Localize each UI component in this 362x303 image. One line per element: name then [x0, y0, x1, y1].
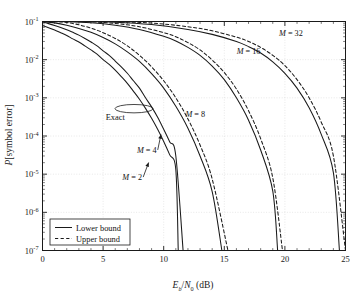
legend-label-solid: Lower bound — [76, 224, 122, 233]
x-tick-label: 10 — [159, 254, 168, 264]
x-tick-label: 20 — [281, 254, 290, 264]
annotation-m-4: M = 4 — [136, 146, 157, 155]
annotation-m-16: M = 16 — [236, 47, 261, 56]
annotation-exact: Exact — [106, 113, 126, 122]
annotation-m-8: M = 8 — [184, 110, 205, 119]
legend-label-dashed: Upper bound — [76, 235, 121, 244]
x-tick-label: 0 — [40, 254, 44, 264]
chart-background — [0, 0, 362, 303]
y-axis-title: P[symbol error] — [4, 105, 14, 167]
annotation-m-32: M = 32 — [278, 29, 303, 38]
symbol-error-probability-chart: 0510152025 10-110-210-310-410-510-610-7 … — [0, 0, 362, 303]
legend-box: Lower boundUpper bound — [50, 219, 130, 245]
x-tick-label: 15 — [220, 254, 229, 264]
x-tick-label: 5 — [101, 254, 105, 264]
annotation-m-2: M = 2 — [121, 173, 142, 182]
x-tick-label: 25 — [341, 254, 350, 264]
